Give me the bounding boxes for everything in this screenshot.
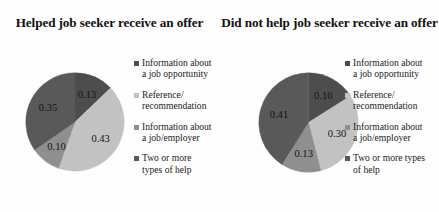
legend-label: Two or more types of help [142,152,192,175]
legend-swatch-icon [134,125,139,130]
chart-panel-right: Did not help job seeker receive an offer… [220,0,439,212]
legend-item: Information about a job/employer [345,121,439,144]
pie-chart-right: 0.160.300.130.41 [258,72,359,173]
legend-swatch-icon [134,61,139,66]
legend-label: Reference/ recommendation [142,89,206,112]
pie-svg-left: 0.130.430.100.35 [25,72,125,172]
pie-slice-value-label: 0.13 [294,148,313,159]
pie-slice-value-label: 0.10 [47,141,65,152]
legend-swatch-icon [345,61,350,66]
pie-chart-figure: Helped job seeker receive an offer 0.130… [0,0,439,212]
legend-label: Information about a job/employer [142,121,212,144]
legend-item: Information about a job/employer [134,121,220,144]
legend-item: Two or more types of help [345,152,439,175]
legend-item: Reference/ recommendation [134,89,220,112]
panel-title-left: Helped job seeker receive an offer [0,14,219,31]
legend-label: Information about a job opportunity [142,57,212,80]
panel-title-right: Did not help job seeker receive an offer [220,14,439,31]
legend-swatch-icon [345,156,350,161]
legend-label: Two or more types of help [353,152,425,175]
legend-label: Reference/ recommendation [353,89,417,112]
legend-item: Reference/ recommendation [345,89,439,112]
legend-item: Two or more types of help [134,152,220,175]
legend-left: Information about a job opportunity Refe… [134,57,220,184]
pie-slice-value-label: 0.16 [314,90,333,101]
pie-slice-value-label: 0.13 [78,89,96,100]
pie-slice-value-label: 0.35 [39,102,57,113]
pie-slice-value-label: 0.41 [270,109,289,120]
legend-swatch-icon [134,93,139,98]
legend-label: Information about a job opportunity [353,57,423,80]
legend-right: Information about a job opportunity Refe… [345,57,439,184]
legend-swatch-icon [345,93,350,98]
legend-item: Information about a job opportunity [134,57,220,80]
legend-label: Information about a job/employer [353,121,423,144]
pie-svg-right: 0.160.300.130.41 [258,72,359,173]
legend-swatch-icon [345,125,350,130]
pie-chart-left: 0.130.430.100.35 [25,72,125,172]
legend-swatch-icon [134,156,139,161]
chart-panel-left: Helped job seeker receive an offer 0.130… [0,0,219,212]
pie-slice-value-label: 0.43 [91,133,109,144]
pie-slices-left [26,73,124,171]
legend-item: Information about a job opportunity [345,57,439,80]
pie-slice-value-label: 0.30 [328,128,347,139]
